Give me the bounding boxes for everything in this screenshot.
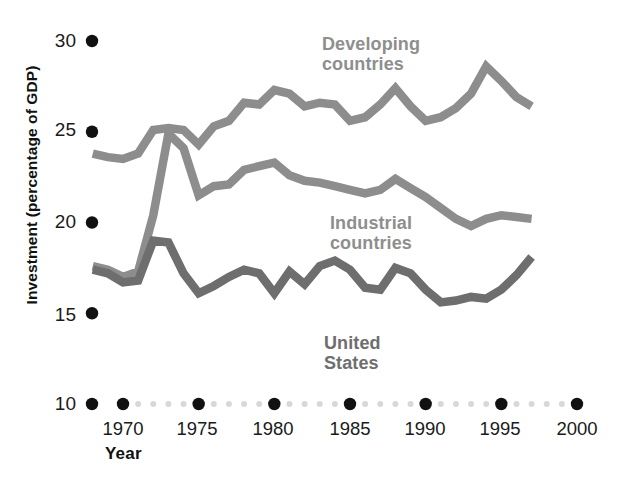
series-annotation-industrial: Industrial countries	[330, 213, 412, 253]
x-minor-dot	[529, 401, 535, 407]
series-line-united-states	[93, 241, 532, 303]
x-minor-dot	[332, 401, 338, 407]
x-minor-dot	[468, 401, 474, 407]
x-minor-dot	[241, 401, 247, 407]
x-minor-dot	[317, 401, 323, 407]
x-tick-dot-1995	[495, 398, 507, 410]
chart-container: Investment (percentage of GDP) 30 25 20 …	[0, 0, 622, 496]
x-minor-dot	[559, 401, 565, 407]
x-tick-dot-2000	[571, 398, 583, 410]
x-minor-dot	[392, 401, 398, 407]
x-minor-dot	[362, 401, 368, 407]
series-annotation-united-states: United States	[324, 333, 381, 373]
series-line-developing-countries	[93, 66, 532, 159]
x-tick-dot-1985	[344, 398, 356, 410]
x-minor-dot	[302, 401, 308, 407]
x-minor-dot	[256, 401, 262, 407]
x-minor-dot	[513, 401, 519, 407]
x-tick-dot-1990	[419, 398, 431, 410]
x-axis-tick-dots	[117, 398, 583, 410]
y-tick-dot-30	[86, 35, 98, 47]
x-minor-dot	[483, 401, 489, 407]
x-minor-dot	[150, 401, 156, 407]
annotation-line-2: States	[324, 353, 381, 373]
annotation-line-2: countries	[330, 233, 412, 253]
annotation-line-2: countries	[322, 54, 420, 74]
x-minor-dot	[453, 401, 459, 407]
x-minor-dot	[135, 401, 141, 407]
annotation-line-1: United	[324, 333, 381, 353]
x-minor-dot	[544, 401, 550, 407]
y-axis-tick-dots	[86, 35, 98, 410]
series-lines	[93, 66, 532, 302]
x-minor-dot	[286, 401, 292, 407]
x-minor-dot	[408, 401, 414, 407]
series-annotation-developing: Developing countries	[322, 34, 420, 74]
x-minor-dot	[377, 401, 383, 407]
y-tick-dot-20	[86, 216, 98, 228]
x-tick-dot-1980	[268, 398, 280, 410]
x-tick-dot-1975	[192, 398, 204, 410]
plot-area	[0, 0, 622, 496]
x-minor-dot	[226, 401, 232, 407]
series-line-industrial-countries	[93, 134, 532, 277]
y-tick-dot-15	[86, 307, 98, 319]
y-tick-dot-10	[86, 398, 98, 410]
x-minor-dot	[438, 401, 444, 407]
x-minor-dot	[165, 401, 171, 407]
x-minor-dot	[211, 401, 217, 407]
annotation-line-1: Industrial	[330, 213, 412, 233]
annotation-line-1: Developing	[322, 34, 420, 54]
y-tick-dot-25	[86, 126, 98, 138]
x-tick-dot-1970	[117, 398, 129, 410]
x-minor-dot	[181, 401, 187, 407]
